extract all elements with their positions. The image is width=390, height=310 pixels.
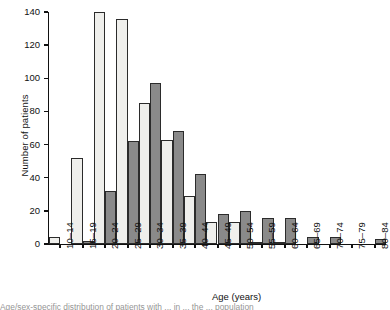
y-tick-label: 0: [12, 239, 40, 249]
histogram-bar: [49, 237, 60, 244]
x-tick-mark: [284, 244, 286, 248]
x-tick-label: 80–84: [379, 222, 390, 249]
histogram-bar: [116, 19, 127, 244]
x-tick-mark: [172, 244, 174, 248]
y-tick-mark: [44, 210, 48, 211]
y-tick-label: 100: [12, 73, 40, 83]
y-tick-label: 20: [12, 206, 40, 216]
x-tick-label: 20–24: [109, 222, 120, 249]
x-tick-mark: [104, 244, 106, 248]
x-tick-label: 25–29: [132, 222, 143, 249]
y-tick-mark: [44, 177, 48, 178]
x-tick-mark: [239, 244, 241, 248]
x-tick-mark: [194, 244, 196, 248]
x-tick-mark: [149, 244, 151, 248]
y-tick-label: 120: [12, 40, 40, 50]
y-tick-label: 60: [12, 140, 40, 150]
x-tick-mark: [261, 244, 263, 248]
x-axis-title: Age (years): [212, 291, 261, 302]
x-tick-mark: [306, 244, 308, 248]
x-tick-mark: [329, 244, 331, 248]
x-tick-label: 70–74: [334, 222, 345, 249]
x-tick-label: 15–19: [87, 222, 98, 249]
x-tick-label: 40–44: [199, 222, 210, 249]
x-tick-label: 10–14: [64, 222, 75, 249]
x-tick-mark: [127, 244, 129, 248]
y-axis-title: Number of patients: [19, 66, 30, 206]
x-tick-label: 55–59: [266, 222, 277, 249]
y-tick-mark: [44, 44, 48, 45]
histogram-bar: [94, 12, 105, 244]
y-tick-label: 80: [12, 106, 40, 116]
x-tick-label: 45–49: [222, 222, 233, 249]
plot-area: [49, 12, 386, 244]
x-tick-mark: [59, 244, 61, 248]
x-tick-mark: [82, 244, 84, 248]
x-tick-label: 60–64: [289, 222, 300, 249]
y-tick-label: 40: [12, 173, 40, 183]
y-tick-mark: [44, 144, 48, 145]
x-tick-mark: [351, 244, 353, 248]
y-tick-label: 140: [12, 7, 40, 17]
figure-caption: Age/sex-specific distribution of patient…: [0, 302, 390, 310]
y-tick-mark: [44, 11, 48, 12]
y-tick-mark: [44, 243, 48, 244]
x-tick-label: 65–69: [311, 222, 322, 249]
x-tick-label: 50–54: [244, 222, 255, 249]
x-tick-mark: [217, 244, 219, 248]
y-tick-mark: [44, 111, 48, 112]
y-tick-mark: [44, 78, 48, 79]
x-tick-label: 75–79: [356, 222, 367, 249]
x-tick-label: 35–39: [177, 222, 188, 249]
x-tick-label: 30–34: [154, 222, 165, 249]
histogram-bar: [150, 83, 161, 244]
x-tick-mark: [374, 244, 376, 248]
